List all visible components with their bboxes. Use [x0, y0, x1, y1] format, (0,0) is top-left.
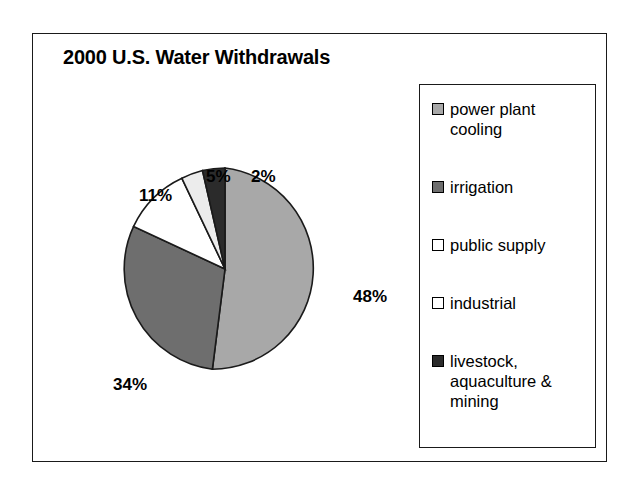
pie-label-livestock: 2% [251, 167, 276, 187]
legend-item-livestock-aquaculture-mining: livestock, aquaculture & mining [432, 351, 585, 411]
pie-slice-power-plant-cooling [212, 168, 313, 369]
legend-item-power-plant-cooling: power plant cooling [432, 99, 585, 139]
legend-swatch-icon [432, 103, 444, 115]
pie-label-power-plant-cooling: 48% [353, 287, 387, 307]
legend-swatch-icon [432, 355, 444, 367]
pie-label-industrial: 5% [206, 167, 231, 187]
legend-label: industrial [450, 293, 516, 313]
legend-swatch-icon [432, 181, 444, 193]
legend-label: public supply [450, 235, 545, 255]
chart-legend: power plant cooling irrigation public su… [419, 84, 596, 448]
legend-item-public-supply: public supply [432, 235, 585, 255]
legend-label: livestock, aquaculture & mining [450, 351, 585, 411]
legend-item-irrigation: irrigation [432, 177, 585, 197]
legend-swatch-icon [432, 239, 444, 251]
legend-label: irrigation [450, 177, 513, 197]
legend-item-industrial: industrial [432, 293, 585, 313]
page-title: 2000 U.S. Water Withdrawals [63, 46, 330, 69]
legend-label: power plant cooling [450, 99, 585, 139]
pie-label-public-supply: 11% [139, 186, 172, 206]
figure-frame: 2000 U.S. Water Withdrawals 48% 34% 11% … [32, 33, 607, 462]
pie-label-irrigation: 34% [113, 375, 147, 395]
legend-swatch-icon [432, 297, 444, 309]
